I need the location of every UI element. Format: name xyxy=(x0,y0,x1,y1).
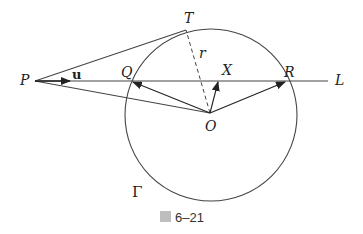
label-T: T xyxy=(184,10,195,26)
caption-number: 6–21 xyxy=(175,210,204,225)
segment-PO xyxy=(35,81,210,113)
diagram-canvas: P T Q X R L O r u Γ 6–21 xyxy=(0,0,363,234)
label-X: X xyxy=(221,62,233,78)
radius-OT-dashed xyxy=(186,30,210,113)
label-P: P xyxy=(19,72,30,88)
circle-gamma xyxy=(125,29,297,201)
tangent-PT xyxy=(35,30,186,81)
vector-OX-arrow xyxy=(210,82,218,113)
label-gamma: Γ xyxy=(132,183,142,201)
label-R: R xyxy=(283,64,295,80)
label-r: r xyxy=(199,45,207,61)
vector-OQ-arrow xyxy=(133,82,210,113)
label-O: O xyxy=(205,118,217,134)
label-L: L xyxy=(334,72,344,88)
caption-glyph-box xyxy=(160,211,171,222)
vector-OR-arrow xyxy=(210,82,285,113)
label-u: u xyxy=(72,67,81,82)
label-Q: Q xyxy=(121,64,133,80)
